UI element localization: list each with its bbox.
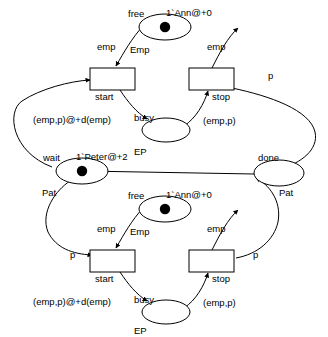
place-free-upper[interactable]: free 1`Ann@+0 Emp bbox=[128, 7, 212, 55]
transition-label-stop: stop bbox=[212, 91, 230, 102]
arc-label-empp-upper: (emp,p) bbox=[203, 115, 236, 126]
transition-stop-lower[interactable]: stop bbox=[189, 250, 234, 284]
place-label-busy: busy bbox=[134, 294, 154, 305]
place-label-free: free bbox=[128, 8, 144, 19]
arc-label-p-upper: p bbox=[268, 70, 273, 81]
place-label-done: done bbox=[258, 152, 279, 163]
arc-label-emp-left-upper: emp bbox=[97, 41, 115, 52]
arc-label-p-left-lower: p bbox=[70, 249, 75, 260]
arc-label-emp-left-lower: emp bbox=[97, 223, 115, 234]
place-label-wait: wait bbox=[42, 152, 60, 163]
place-marking-free: 1`Ann@+0 bbox=[166, 7, 212, 18]
place-wait[interactable]: wait 1`Peter@+2 Pat bbox=[42, 151, 128, 198]
arc-label-emp-right-lower: emp bbox=[207, 223, 225, 234]
lower-net: free 1`Ann@+0 Emp busy EP start stop emp… bbox=[33, 189, 258, 336]
place-label-free: free bbox=[128, 190, 144, 201]
place-free-lower[interactable]: free 1`Ann@+0 Emp bbox=[128, 189, 212, 237]
place-marking-wait: 1`Peter@+2 bbox=[76, 151, 128, 162]
arc-label-empp-lower: (emp,p) bbox=[203, 297, 236, 308]
place-type-free: Emp bbox=[130, 226, 150, 237]
transition-start-upper[interactable]: start bbox=[90, 68, 135, 102]
place-type-busy: EP bbox=[134, 146, 147, 157]
place-label-busy: busy bbox=[134, 112, 154, 123]
arc-label-emp-right-upper: emp bbox=[207, 41, 225, 52]
transition-label-stop: stop bbox=[212, 273, 230, 284]
transition-stop-upper[interactable]: stop bbox=[189, 68, 234, 102]
arc-label-empp-delay-lower: (emp,p)@+d(emp) bbox=[33, 296, 111, 307]
token-dot bbox=[77, 166, 87, 176]
transition-start-lower[interactable]: start bbox=[90, 250, 135, 284]
place-done[interactable]: done Pat bbox=[254, 152, 304, 198]
arc-stop-to-done-lower bbox=[236, 178, 279, 258]
place-marking-free: 1`Ann@+0 bbox=[166, 189, 212, 200]
arc-label-p-right-lower: p bbox=[253, 249, 258, 260]
place-type-busy: EP bbox=[134, 325, 147, 336]
transition-label-start: start bbox=[95, 91, 114, 102]
petri-net-diagram: free 1`Ann@+0 Emp busy EP start stop emp… bbox=[0, 0, 328, 337]
upper-net: free 1`Ann@+0 Emp busy EP start stop emp… bbox=[14, 7, 316, 168]
token-dot bbox=[160, 204, 170, 214]
place-busy-lower[interactable]: busy EP bbox=[134, 294, 190, 336]
arc-label-empp-delay-upper: (emp,p)@+d(emp) bbox=[33, 114, 111, 125]
place-type-free: Emp bbox=[130, 44, 150, 55]
token-dot bbox=[160, 22, 170, 32]
place-type-done: Pat bbox=[279, 187, 294, 198]
arc-done-to-wait bbox=[84, 171, 254, 174]
transition-label-start: start bbox=[95, 273, 114, 284]
place-type-wait: Pat bbox=[42, 187, 57, 198]
place-busy-upper[interactable]: busy EP bbox=[134, 112, 190, 157]
